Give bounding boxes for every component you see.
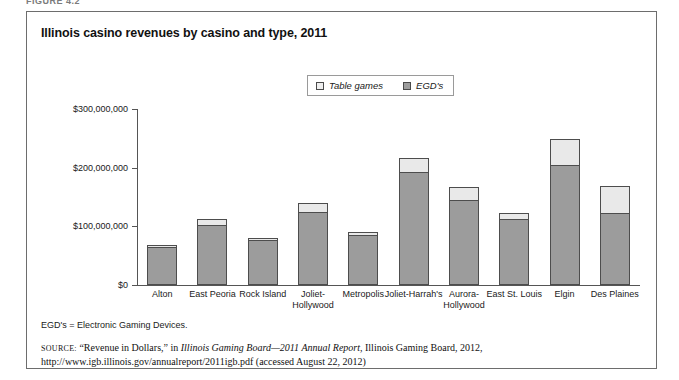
bar-segment-table-games bbox=[600, 186, 630, 214]
y-tick-mark bbox=[132, 109, 137, 110]
legend-swatch-table-games-icon bbox=[316, 82, 324, 90]
figure-frame: Illinois casino revenues by casino and t… bbox=[26, 11, 657, 369]
bar-group bbox=[147, 245, 177, 285]
source-italic-title: Illinois Gaming Board—2011 Annual Report… bbox=[181, 342, 363, 353]
x-label-line: Hollywood bbox=[281, 300, 345, 311]
footnote-text: EGD's = Electronic Gaming Devices. bbox=[41, 320, 188, 330]
bar-segment-egds bbox=[499, 219, 529, 285]
bar-segment-table-games bbox=[298, 203, 328, 212]
legend-item-egds: EGD's bbox=[403, 80, 443, 91]
source-note: SOURCE: “Revenue in Dollars,” in Illinoi… bbox=[41, 342, 641, 368]
bar-group bbox=[399, 158, 429, 285]
page-title: Illinois casino revenues by casino and t… bbox=[41, 26, 327, 40]
legend-swatch-egds-icon bbox=[403, 82, 411, 90]
bar-group bbox=[499, 213, 529, 285]
bar-segment-table-games bbox=[449, 187, 479, 200]
bar-segment-egds bbox=[550, 165, 580, 285]
bar-segment-egds bbox=[248, 240, 278, 285]
bar-group bbox=[248, 238, 278, 285]
legend-item-table-games: Table games bbox=[316, 80, 383, 91]
y-tick-label: $100,000,000 bbox=[73, 221, 128, 231]
bar-group bbox=[449, 187, 479, 285]
bar-group bbox=[197, 219, 227, 285]
bar-segment-egds bbox=[449, 200, 479, 285]
y-tick-mark bbox=[132, 226, 137, 227]
x-axis-line bbox=[137, 285, 640, 286]
bar-group bbox=[550, 139, 580, 285]
x-label-line: Hollywood bbox=[432, 300, 496, 311]
source-part1: “Revenue in Dollars,” in bbox=[77, 342, 181, 353]
x-axis-label-des-plaines: Des Plaines bbox=[583, 289, 647, 300]
bar-group bbox=[348, 232, 378, 285]
bar-segment-egds bbox=[600, 213, 630, 285]
bar-group bbox=[298, 203, 328, 285]
bar-segment-egds bbox=[298, 212, 328, 285]
bar-segment-egds bbox=[197, 225, 227, 285]
y-axis-line bbox=[137, 109, 138, 285]
y-tick-label: $300,000,000 bbox=[73, 104, 128, 114]
bar-segment-table-games bbox=[399, 158, 429, 173]
source-label: SOURCE: bbox=[41, 344, 77, 353]
y-tick-label: $0 bbox=[118, 280, 128, 290]
bar-segment-egds bbox=[348, 235, 378, 285]
bar-segment-egds bbox=[147, 247, 177, 285]
bar-segment-table-games bbox=[550, 139, 580, 165]
chart-legend: Table games EGD's bbox=[307, 75, 454, 96]
y-tick-label: $200,000,000 bbox=[73, 163, 128, 173]
y-tick-mark bbox=[132, 168, 137, 169]
y-tick-mark bbox=[132, 285, 137, 286]
legend-label-egds: EGD's bbox=[416, 80, 443, 91]
bar-segment-egds bbox=[399, 172, 429, 285]
legend-label-table-games: Table games bbox=[329, 80, 383, 91]
plot-area: $0$100,000,000$200,000,000$300,000,000 A… bbox=[137, 109, 640, 285]
figure-number-label: FIGURE 4.2 bbox=[26, 0, 80, 6]
bar-group bbox=[600, 186, 630, 285]
